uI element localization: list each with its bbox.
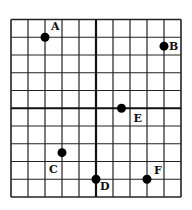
point-d: D — [92, 175, 111, 194]
point-a: A — [41, 20, 61, 42]
point-label: A — [50, 20, 60, 33]
points: ABCDEF — [41, 20, 179, 193]
point-marker — [143, 175, 152, 184]
point-marker — [58, 148, 67, 157]
point-marker — [41, 33, 50, 42]
point-label: F — [154, 164, 162, 177]
point-label: B — [169, 40, 178, 53]
point-marker — [117, 104, 126, 113]
point-f: F — [143, 164, 163, 184]
point-label: D — [100, 180, 110, 193]
point-label: C — [49, 163, 58, 176]
point-b: B — [160, 40, 179, 53]
point-marker — [160, 42, 169, 51]
coordinate-grid: ABCDEF — [0, 0, 192, 210]
point-label: E — [134, 112, 142, 125]
